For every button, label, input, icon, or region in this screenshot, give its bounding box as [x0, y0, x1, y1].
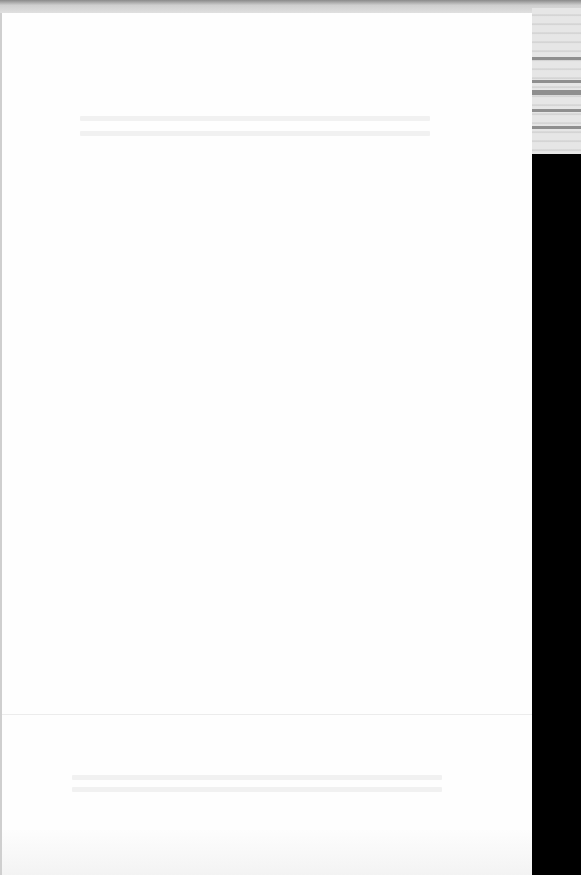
strip-band — [532, 109, 581, 112]
footer-line-1 — [72, 775, 442, 780]
scanner-black-margin — [532, 154, 581, 875]
strip-band — [532, 90, 581, 95]
scanned-page — [2, 13, 532, 875]
scanner-side-strip — [532, 8, 581, 154]
bottom-scan-noise — [2, 830, 532, 875]
heading-line-2 — [80, 131, 430, 136]
footer-line-2 — [72, 787, 442, 792]
scanner-top-edge — [0, 0, 581, 13]
strip-band — [532, 57, 581, 60]
horizontal-fold-line — [2, 714, 532, 715]
heading-line-1 — [80, 116, 430, 121]
strip-band — [532, 80, 581, 83]
strip-band — [532, 126, 581, 129]
